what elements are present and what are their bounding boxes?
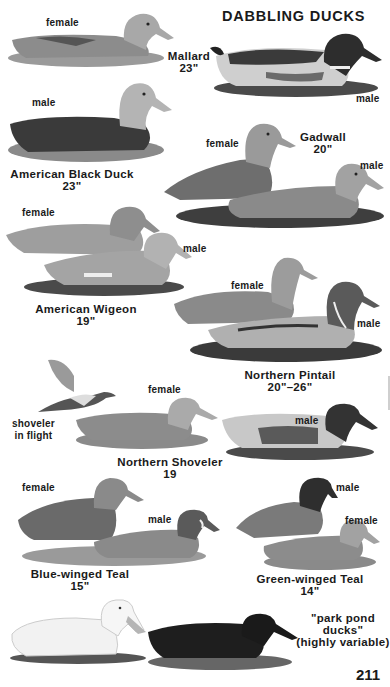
pintail-size: 20"–26"	[244, 381, 336, 393]
shoveler-name: Northern Shoveler	[116, 456, 224, 468]
park-label-line3: (highly variable)	[296, 636, 390, 648]
mallard-female-label: female	[46, 17, 79, 28]
gadwall-name: Gadwall	[294, 131, 352, 143]
park-duck-white-illustration	[6, 596, 152, 666]
black-duck-species-label: American Black Duck 23"	[8, 168, 136, 192]
pintail-name: Northern Pintail	[244, 369, 336, 381]
wigeon-illustration	[4, 205, 194, 297]
black-duck-size: 23"	[8, 180, 136, 192]
park-label-line1: "park pond	[296, 612, 390, 624]
pintail-illustration	[168, 254, 382, 366]
gadwall-size: 20"	[294, 143, 352, 155]
shoveler-male-illustration	[218, 402, 380, 462]
pintail-species-label: Northern Pintail 20"–26"	[244, 369, 336, 393]
black-duck-male-label: male	[32, 97, 56, 108]
green-winged-teal-species-label: Green-winged Teal 14"	[256, 573, 364, 597]
green-winged-teal-female-label: female	[345, 515, 378, 526]
shoveler-flight-label: shoveler in flight	[12, 418, 55, 442]
flight-label-line2: in flight	[12, 430, 55, 442]
gadwall-female-label: female	[206, 138, 239, 149]
wigeon-name: American Wigeon	[34, 303, 138, 315]
pintail-female-label: female	[231, 280, 264, 291]
flight-label-line1: shoveler	[12, 418, 55, 430]
black-duck-name: American Black Duck	[8, 168, 136, 180]
gadwall-species-label: Gadwall 20"	[294, 131, 352, 155]
mallard-female-illustration	[6, 10, 176, 72]
park-pond-ducks-label: "park pond ducks" (highly variable)	[296, 612, 390, 648]
green-winged-teal-size: 14"	[256, 585, 364, 597]
blue-winged-teal-name: Blue-winged Teal	[30, 568, 130, 580]
mallard-male-label: male	[356, 93, 380, 104]
shoveler-female-illustration	[72, 396, 220, 452]
pintail-male-label: male	[357, 318, 381, 329]
black-duck-illustration	[4, 80, 172, 166]
gadwall-male-label: male	[360, 160, 384, 171]
blue-winged-teal-female-label: female	[22, 482, 55, 493]
green-winged-teal-male-label: male	[336, 482, 360, 493]
wigeon-male-label: male	[183, 243, 207, 254]
green-winged-teal-name: Green-winged Teal	[256, 573, 364, 585]
wigeon-female-label: female	[22, 207, 55, 218]
park-label-line2: ducks"	[296, 624, 390, 636]
page-number: 211	[356, 666, 380, 683]
park-duck-dark-illustration	[144, 612, 300, 672]
wigeon-species-label: American Wigeon 19"	[34, 303, 138, 327]
mallard-male-illustration	[206, 32, 384, 98]
shoveler-species-label: Northern Shoveler 19	[116, 456, 224, 480]
shoveler-female-label: female	[148, 384, 181, 395]
page-title: DABBLING DUCKS	[222, 8, 365, 24]
blue-winged-teal-size: 15"	[30, 580, 130, 592]
blue-winged-teal-species-label: Blue-winged Teal 15"	[30, 568, 130, 592]
shoveler-male-label: male	[295, 415, 319, 426]
wigeon-size: 19"	[34, 315, 138, 327]
blue-winged-teal-male-label: male	[148, 514, 172, 525]
